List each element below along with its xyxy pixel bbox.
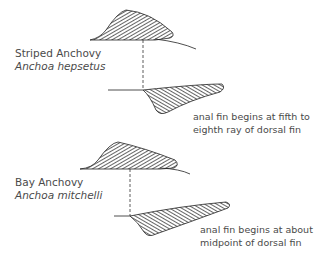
common-name: Bay Anchovy (15, 176, 102, 189)
bay-anchovy-dorsal-fin (80, 142, 190, 174)
note-line: anal fin begins at fifth to (193, 111, 310, 124)
note-line: anal fin begins at about (200, 224, 313, 237)
scientific-name: Anchoa hepsetus (15, 60, 105, 73)
scientific-name: Anchoa mitchelli (15, 189, 102, 202)
striped-anchovy-anal-fin (108, 84, 224, 114)
common-name: Striped Anchovy (15, 47, 105, 60)
note-line: midpoint of dorsal fin (200, 237, 313, 250)
bay-anchovy-label: Bay Anchovy Anchoa mitchelli (15, 176, 102, 202)
striped-anchovy-dorsal-fin (90, 10, 196, 49)
striped-anchovy-note: anal fin begins at fifth to eighth ray o… (193, 111, 310, 136)
bay-anchovy-note: anal fin begins at about midpoint of dor… (200, 224, 313, 249)
striped-anchovy-label: Striped Anchovy Anchoa hepsetus (15, 47, 105, 73)
note-line: eighth ray of dorsal fin (193, 124, 310, 137)
